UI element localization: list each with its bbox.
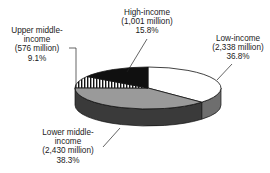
label-line: (1,001 million) — [121, 17, 173, 26]
slice-label-upper-middle-income: Upper middle-income(576 million)9.1% — [11, 26, 63, 63]
slice-label-lower-middle-income: Lower middle-income(2,430 million)38.3% — [42, 128, 94, 165]
label-line: (2,430 million) — [42, 146, 94, 155]
label-line: 9.1% — [28, 54, 47, 63]
label-line: 36.8% — [226, 52, 249, 61]
label-line: income — [55, 137, 82, 146]
label-line: income — [24, 35, 51, 44]
label-line: High-income — [124, 8, 170, 17]
label-line: Lower middle- — [42, 128, 94, 137]
pie-chart: Low-income(2,338 million)36.8%Lower midd… — [0, 0, 270, 173]
leader-line-upper-middle-income — [69, 48, 76, 88]
leader-line-low-income — [217, 64, 232, 80]
slice-label-low-income: Low-income(2,338 million)36.8% — [212, 34, 264, 61]
label-line: (2,338 million) — [212, 43, 264, 52]
leader-line-lower-middle-income — [103, 128, 120, 147]
label-line: Upper middle- — [11, 26, 63, 35]
label-line: 15.8% — [135, 26, 158, 35]
label-line: (576 million) — [15, 44, 60, 53]
slice-label-high-income: High-income(1,001 million)15.8% — [121, 8, 173, 35]
pie-top-faces — [75, 67, 221, 109]
label-line: Low-income — [216, 34, 261, 43]
label-line: 38.3% — [56, 156, 79, 165]
